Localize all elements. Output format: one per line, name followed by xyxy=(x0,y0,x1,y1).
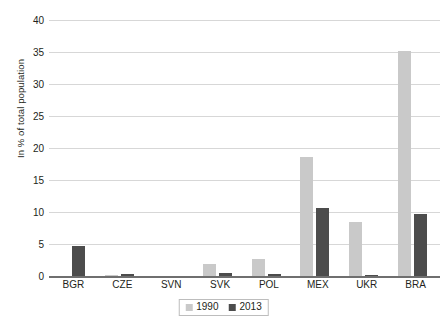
bar-group xyxy=(147,20,196,276)
bar-pol-2013 xyxy=(268,274,281,276)
y-axis-tick-label: 0 xyxy=(0,271,44,282)
x-axis-label-bgr: BGR xyxy=(48,279,98,290)
bar-mex-1990 xyxy=(300,157,313,276)
y-axis-tick-label: 20 xyxy=(0,143,44,154)
bar-group xyxy=(196,20,245,276)
legend-swatch-icon xyxy=(229,304,236,311)
bar-ukr-2013 xyxy=(365,275,378,276)
plot-area xyxy=(49,20,440,276)
bar-bgr-2013 xyxy=(72,246,85,276)
y-axis-tick-label: 25 xyxy=(0,111,44,122)
x-axis-label-mex: MEX xyxy=(293,279,343,290)
bar-group xyxy=(49,20,98,276)
x-axis-line xyxy=(49,276,440,278)
bar-pol-1990 xyxy=(252,259,265,276)
bar-group xyxy=(342,20,391,276)
x-axis-category-labels: BGRCZESVNSVKPOLMEXUKRBRA xyxy=(49,279,440,295)
bar-group xyxy=(245,20,294,276)
legend-item-2013: 2013 xyxy=(229,301,262,313)
y-axis-tick-label: 30 xyxy=(0,79,44,90)
x-axis-label-ukr: UKR xyxy=(342,279,392,290)
y-axis-tick-label: 10 xyxy=(0,207,44,218)
bar-svk-1990 xyxy=(203,264,216,276)
bar-group xyxy=(391,20,440,276)
x-axis-label-svn: SVN xyxy=(146,279,196,290)
legend-label: 1990 xyxy=(196,301,218,313)
bar-group xyxy=(98,20,147,276)
bar-cze-2013 xyxy=(121,274,134,276)
y-axis-tick-label: 35 xyxy=(0,47,44,58)
bar-group xyxy=(293,20,342,276)
legend-item-1990: 1990 xyxy=(185,301,218,313)
y-axis-tick-label: 15 xyxy=(0,175,44,186)
legend-swatch-icon xyxy=(185,304,192,311)
bar-bra-1990 xyxy=(398,51,411,276)
bar-cze-1990 xyxy=(105,275,118,276)
x-axis-label-pol: POL xyxy=(244,279,294,290)
bar-mex-2013 xyxy=(316,208,329,276)
y-axis-tick-label: 40 xyxy=(0,15,44,26)
y-axis-tick-labels: 0510152025303540 xyxy=(0,20,44,276)
chart-legend: 19902013 xyxy=(178,299,269,316)
bar-ukr-1990 xyxy=(349,222,362,276)
bar-svk-2013 xyxy=(219,273,232,276)
bar-chart: In % of total population 051015202530354… xyxy=(0,0,447,322)
bar-bra-2013 xyxy=(414,214,427,276)
x-axis-label-svk: SVK xyxy=(195,279,245,290)
y-axis-tick-label: 5 xyxy=(0,239,44,250)
x-axis-label-bra: BRA xyxy=(391,279,441,290)
legend-label: 2013 xyxy=(240,301,262,313)
x-axis-label-cze: CZE xyxy=(97,279,147,290)
bar-series-container xyxy=(49,20,440,276)
